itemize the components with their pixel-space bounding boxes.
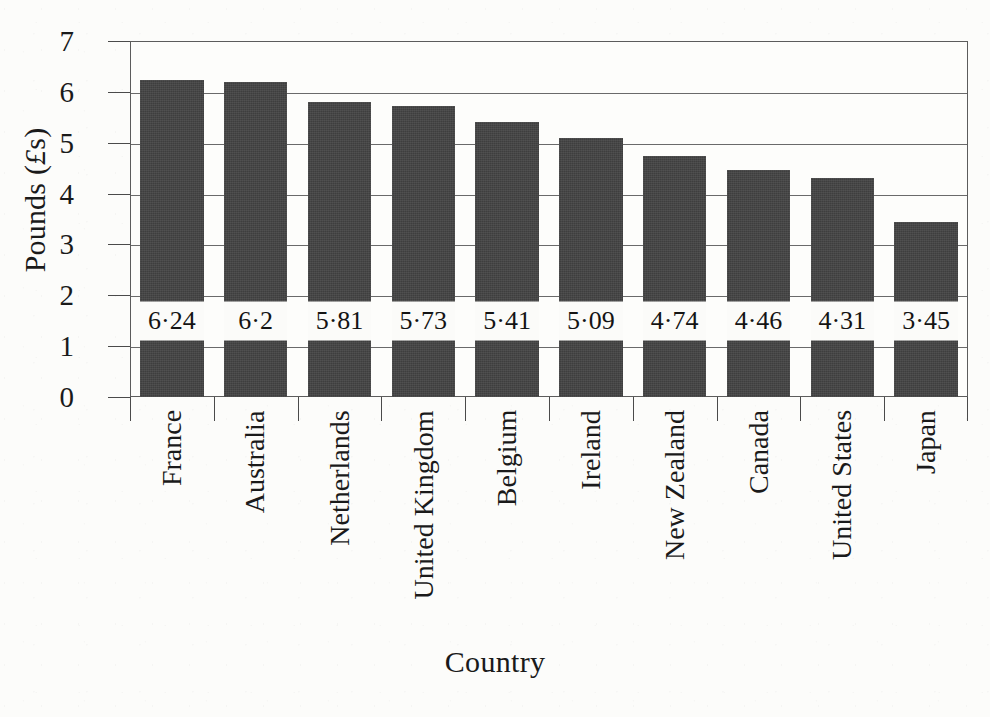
bar-value-label: 5·73 <box>392 301 455 340</box>
y-tick-label: 4 <box>32 179 74 208</box>
y-tick-label: 7 <box>32 27 74 56</box>
bar[interactable] <box>559 138 622 397</box>
y-tick-mark <box>108 397 130 398</box>
y-tick-mark <box>108 244 130 245</box>
bar[interactable] <box>727 170 790 397</box>
y-tick-label: 5 <box>32 128 74 157</box>
x-category-label: France <box>157 404 187 619</box>
x-category-label: Ireland <box>576 404 606 619</box>
bar-value-label: 4·46 <box>727 301 790 340</box>
y-tick-label: 1 <box>32 332 74 361</box>
x-category-label-text: Belgium <box>493 410 521 506</box>
bar[interactable] <box>392 106 455 397</box>
y-tick-label: 0 <box>32 383 74 412</box>
x-category-label-text: Netherlands <box>326 410 354 545</box>
x-axis-category-labels: FranceAustraliaNetherlandsUnited Kingdom… <box>130 404 968 619</box>
x-category-label: Canada <box>744 404 774 619</box>
x-category-label: Netherlands <box>325 404 355 619</box>
x-category-label: New Zealand <box>660 404 690 619</box>
x-category-label: Australia <box>241 404 271 619</box>
y-tick-label: 3 <box>32 230 74 259</box>
bar-value-label: 3·45 <box>894 301 957 340</box>
y-tick-mark <box>108 295 130 296</box>
x-category-label-text: United Kingdom <box>409 410 437 599</box>
x-category-label: United Kingdom <box>408 404 438 619</box>
x-category-label-text: New Zealand <box>661 410 689 560</box>
bar-value-label: 5·41 <box>475 301 538 340</box>
bar-chart-figure: Pounds (£s) 01234567 6·246·25·815·735·41… <box>0 0 990 717</box>
bar[interactable] <box>811 178 874 397</box>
bar-value-label: 5·09 <box>559 301 622 340</box>
y-tick-mark <box>108 41 130 42</box>
bar-value-label: 6·24 <box>140 301 203 340</box>
y-tick-mark <box>108 92 130 93</box>
bar[interactable] <box>224 82 287 397</box>
x-category-label-text: Ireland <box>577 410 605 489</box>
bar[interactable] <box>643 156 706 397</box>
x-category-label-text: Canada <box>745 410 773 494</box>
bar[interactable] <box>475 122 538 397</box>
x-category-label-text: United States <box>828 410 856 560</box>
x-category-label-text: France <box>158 410 186 486</box>
x-category-label: Japan <box>911 404 941 619</box>
bar-value-label: 4·74 <box>643 301 706 340</box>
bar-value-label: 6·2 <box>224 301 287 340</box>
x-category-label-text: Australia <box>242 410 270 513</box>
y-tick-label: 6 <box>32 77 74 106</box>
bars-layer: 6·246·25·815·735·415·094·744·464·313·45 <box>130 41 968 397</box>
y-tick-mark <box>108 346 130 347</box>
x-category-label-text: Japan <box>912 410 940 474</box>
bar[interactable] <box>140 80 203 397</box>
bar-value-label: 4·31 <box>811 301 874 340</box>
y-tick-mark <box>108 194 130 195</box>
x-category-label: United States <box>827 404 857 619</box>
bar[interactable] <box>308 102 371 397</box>
bar-value-label: 5·81 <box>308 301 371 340</box>
y-tick-label: 2 <box>32 281 74 310</box>
x-axis-title: Country <box>0 645 990 679</box>
y-tick-mark <box>108 143 130 144</box>
x-category-label: Belgium <box>492 404 522 619</box>
